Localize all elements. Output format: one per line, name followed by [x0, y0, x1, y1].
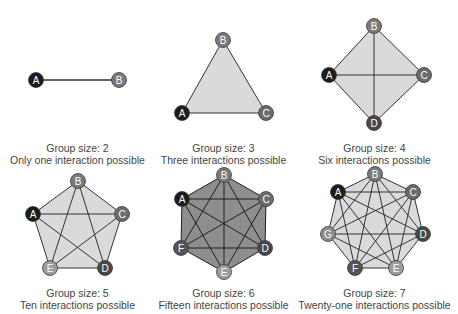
graph-group-size-7: BCDEFGA: [321, 167, 431, 276]
caption-group-5: Group size: 5 Ten interactions possible: [1, 287, 154, 311]
group-size-label: Group size: 4: [298, 142, 451, 154]
graph-group-size-6: BCDEFA: [174, 168, 274, 280]
caption-group-7: Group size: 7 Twenty-one interactions po…: [298, 287, 451, 311]
caption-group-2: Group size: 2 Only one interaction possi…: [1, 142, 154, 166]
node-label: D: [419, 229, 426, 240]
graph-group-size-3: BCA: [175, 33, 274, 121]
node-label: C: [262, 194, 269, 205]
node-label: A: [30, 209, 37, 220]
node-label: A: [326, 70, 333, 81]
node-label: C: [118, 209, 125, 220]
caption-group-3: Group size: 3 Three interactions possibl…: [147, 142, 300, 166]
node-label: D: [370, 118, 377, 129]
node-label: A: [179, 194, 186, 205]
node-label: B: [371, 21, 378, 32]
interactions-label: Six interactions possible: [298, 154, 451, 166]
node-label: D: [261, 243, 268, 254]
node-label: E: [221, 267, 228, 278]
node-label: A: [33, 75, 40, 86]
interactions-label: Only one interaction possible: [1, 154, 154, 166]
interactions-label: Fifteen interactions possible: [147, 299, 300, 311]
interactions-label: Twenty-one interactions possible: [298, 299, 451, 311]
polygon-fill: [182, 40, 266, 113]
graph-group-size-4: BCDA: [322, 19, 432, 131]
caption-group-4: Group size: 4 Six interactions possible: [298, 142, 451, 166]
group-size-label: Group size: 5: [1, 287, 154, 299]
group-size-label: Group size: 7: [298, 287, 451, 299]
node-label: B: [116, 75, 123, 86]
node-label: A: [179, 108, 186, 119]
node-label: C: [262, 108, 269, 119]
node-label: A: [335, 187, 342, 198]
interactions-label: Three interactions possible: [147, 154, 300, 166]
node-label: B: [221, 170, 228, 181]
node-label: F: [178, 243, 184, 254]
graph-group-size-2: AB: [29, 73, 127, 88]
graph-group-size-5: BCDEA: [26, 174, 130, 276]
group-size-label: Group size: 2: [1, 142, 154, 154]
node-label: C: [420, 70, 427, 81]
caption-group-6: Group size: 6 Fifteen interactions possi…: [147, 287, 300, 311]
node-label: E: [47, 263, 54, 274]
node-label: C: [409, 187, 416, 198]
node-label: G: [324, 229, 332, 240]
interactions-label: Ten interactions possible: [1, 299, 154, 311]
group-size-label: Group size: 6: [147, 287, 300, 299]
group-size-label: Group size: 3: [147, 142, 300, 154]
node-label: D: [101, 263, 108, 274]
node-label: B: [220, 35, 227, 46]
node-label: B: [75, 176, 82, 187]
node-label: E: [393, 263, 400, 274]
node-label: F: [352, 263, 358, 274]
node-label: B: [372, 169, 379, 180]
